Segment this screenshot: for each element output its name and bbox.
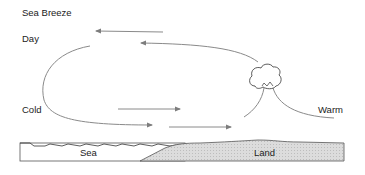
cold-label: Cold — [22, 105, 42, 115]
time-of-day-label: Day — [22, 34, 39, 44]
upper-arrow-curved — [141, 43, 258, 62]
cloud-icon — [250, 64, 282, 89]
circulation-loop-curve — [43, 46, 152, 125]
diagram-title: Sea Breeze — [22, 8, 72, 18]
land-label: Land — [254, 148, 275, 158]
upper-arrow-top — [96, 31, 163, 32]
warm-label: Warm — [318, 105, 343, 115]
sea-label: Sea — [80, 148, 97, 158]
sea-breeze-diagram — [0, 0, 365, 175]
